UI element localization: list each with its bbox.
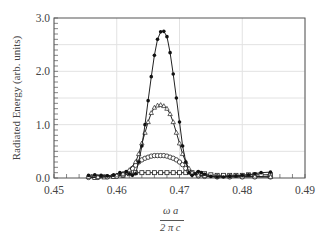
y-axis-title: Radiated Energy (arb. units) (10, 35, 23, 160)
y-tick-label: 0.0 (36, 172, 51, 184)
x-axis-title-numerator: ω a (163, 205, 178, 216)
x-tick-label: 0.47 (169, 184, 189, 196)
x-tick-label: 0.49 (295, 184, 315, 196)
x-tick-label: 0.45 (44, 184, 64, 196)
x-tick-label: 0.48 (232, 184, 252, 196)
chart: 0.450.460.470.480.49 0.01.02.03.0 Radiat… (0, 0, 324, 238)
x-tick-labels: 0.450.460.470.480.49 (44, 184, 315, 196)
grid-lines (54, 18, 305, 178)
y-tick-label: 1.0 (36, 119, 51, 131)
y-tick-label: 3.0 (36, 12, 51, 24)
x-axis-title-denominator: 2 π c (160, 222, 180, 233)
x-axis-title-fraction-bar (160, 220, 184, 221)
x-tick-label: 0.46 (107, 184, 127, 196)
y-tick-label: 2.0 (36, 65, 51, 77)
y-tick-labels: 0.01.02.03.0 (36, 12, 51, 184)
